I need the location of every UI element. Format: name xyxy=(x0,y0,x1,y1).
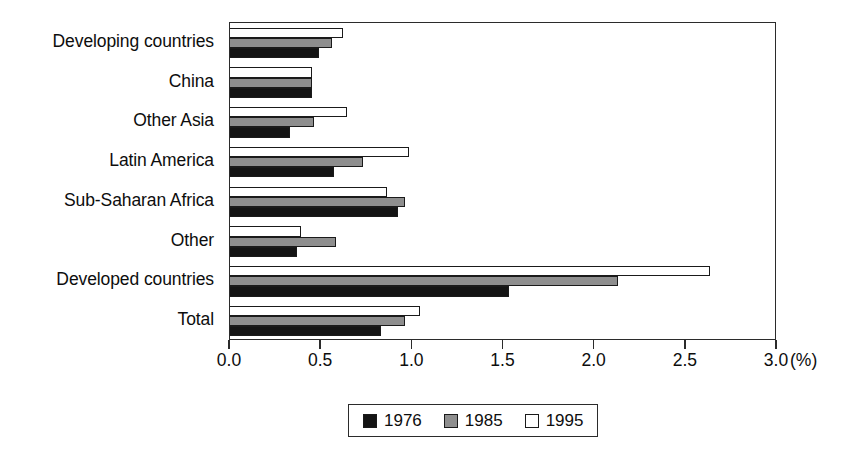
x-tick-label-2.0: 2.0 xyxy=(581,352,605,370)
bar-1995-other xyxy=(230,226,301,236)
legend-item-1985[interactable]: 1985 xyxy=(444,412,503,429)
bar-1995-other-asia xyxy=(230,107,347,117)
category-label-developing-countries: Developing countries xyxy=(53,33,214,51)
x-tick-3.0 xyxy=(775,340,777,349)
white-swatch xyxy=(525,414,539,428)
x-axis-unit-label: (%) xyxy=(790,352,817,370)
bar-1985-sub-saharan-africa xyxy=(230,197,405,207)
category-label-other-asia: Other Asia xyxy=(133,112,214,130)
legend-label-1985: 1985 xyxy=(465,412,503,429)
legend-item-1995[interactable]: 1995 xyxy=(525,412,584,429)
legend-label-1976: 1976 xyxy=(384,412,422,429)
x-tick-1.0 xyxy=(411,340,413,349)
bar-1995-china xyxy=(230,67,312,77)
bar-1976-other xyxy=(230,247,297,257)
legend-item-1976[interactable]: 1976 xyxy=(363,412,422,429)
x-tick-0.0 xyxy=(228,340,230,349)
bar-1995-developed-countries xyxy=(230,266,710,276)
category-label-sub-saharan-africa: Sub-Saharan Africa xyxy=(64,192,214,210)
x-tick-label-3.0: 3.0 xyxy=(764,352,788,370)
x-axis-ticks xyxy=(229,340,776,349)
bar-1976-china xyxy=(230,88,312,98)
bar-1985-developing-countries xyxy=(230,38,332,48)
chart-legend: 197619851995 xyxy=(348,404,598,437)
bar-1985-other xyxy=(230,237,336,247)
bar-1995-latin-america xyxy=(230,147,409,157)
plot-area xyxy=(229,22,776,340)
black-swatch xyxy=(363,414,377,428)
category-label-other: Other xyxy=(171,232,214,250)
bar-1976-latin-america xyxy=(230,167,334,177)
x-axis-tick-labels: 0.00.51.01.52.02.53.0 xyxy=(0,352,857,378)
x-tick-0.5 xyxy=(319,340,321,349)
bar-1995-sub-saharan-africa xyxy=(230,187,387,197)
x-tick-label-2.5: 2.5 xyxy=(673,352,697,370)
category-label-china: China xyxy=(169,73,214,91)
x-tick-2.0 xyxy=(593,340,595,349)
bar-1976-developing-countries xyxy=(230,48,319,58)
category-axis-labels: Developing countriesChinaOther AsiaLatin… xyxy=(0,22,222,340)
bar-1985-china xyxy=(230,78,312,88)
bar-chart: Developing countriesChinaOther AsiaLatin… xyxy=(0,0,857,467)
x-tick-label-1.5: 1.5 xyxy=(490,352,514,370)
bar-1985-latin-america xyxy=(230,157,363,167)
bar-1995-developing-countries xyxy=(230,28,343,38)
x-tick-label-0.5: 0.5 xyxy=(308,352,332,370)
bar-1995-total xyxy=(230,306,420,316)
bar-1976-other-asia xyxy=(230,127,290,137)
category-label-developed-countries: Developed countries xyxy=(56,271,214,289)
gray-swatch xyxy=(444,414,458,428)
x-tick-1.5 xyxy=(502,340,504,349)
bar-1985-developed-countries xyxy=(230,276,618,286)
x-tick-2.5 xyxy=(684,340,686,349)
x-tick-label-1.0: 1.0 xyxy=(399,352,423,370)
category-label-total: Total xyxy=(178,311,214,329)
bar-1976-developed-countries xyxy=(230,286,509,296)
x-tick-label-0.0: 0.0 xyxy=(217,352,241,370)
bar-1985-total xyxy=(230,316,405,326)
bar-1985-other-asia xyxy=(230,117,314,127)
legend-label-1995: 1995 xyxy=(546,412,584,429)
bar-1976-sub-saharan-africa xyxy=(230,207,398,217)
category-label-latin-america: Latin America xyxy=(109,152,214,170)
bar-1976-total xyxy=(230,326,381,336)
